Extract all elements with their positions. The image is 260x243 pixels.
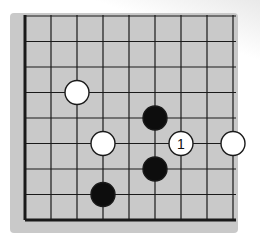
white-stone xyxy=(221,132,245,156)
black-stone xyxy=(91,183,115,207)
white-stone xyxy=(91,132,115,156)
move-number-label: 1 xyxy=(177,136,185,152)
go-board-grid: 1 xyxy=(0,0,260,243)
black-stone xyxy=(143,157,167,181)
black-stone xyxy=(143,106,167,130)
white-stone xyxy=(65,81,89,105)
grid-lines xyxy=(25,15,236,220)
white-stone: 1 xyxy=(169,132,193,156)
